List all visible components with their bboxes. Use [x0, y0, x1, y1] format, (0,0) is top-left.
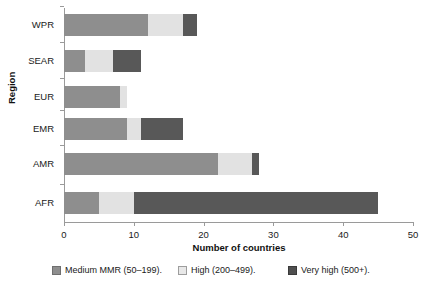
x-tick-0 [64, 222, 65, 226]
x-tick-30 [273, 222, 274, 226]
legend-label-medium: Medium MMR (50–199). [65, 265, 162, 275]
chart-figure: Region WPRSEAREUREMRAMRAFR 01020304050 N… [0, 0, 430, 290]
x-tick-50 [413, 222, 414, 226]
x-tick-label-40: 40 [338, 229, 349, 240]
y-axis-label-sear: SEAR [0, 55, 54, 66]
legend-item-high[interactable]: High (200–499). [178, 265, 256, 275]
bar-amr [64, 153, 259, 175]
legend-label-vhigh: Very high (500+). [301, 265, 370, 275]
bar-segment-amr-2 [252, 153, 259, 175]
bar-sear [64, 50, 141, 72]
y-axis-label-emr: EMR [0, 123, 54, 134]
bar-segment-amr-1 [218, 153, 253, 175]
bar-segment-wpr-1 [148, 14, 183, 36]
x-tick-label-30: 30 [268, 229, 279, 240]
plot-area [64, 8, 413, 222]
bar-segment-sear-2 [113, 50, 141, 72]
bar-segment-emr-1 [127, 118, 141, 140]
bar-segment-amr-0 [64, 153, 218, 175]
legend-swatch-vhigh-icon [288, 266, 297, 275]
y-axis-label-afr: AFR [0, 197, 54, 208]
x-tick-label-50: 50 [408, 229, 419, 240]
x-tick-10 [134, 222, 135, 226]
x-tick-label-0: 0 [61, 229, 66, 240]
legend-item-medium[interactable]: Medium MMR (50–199). [52, 265, 162, 275]
bar-wpr [64, 14, 197, 36]
bar-segment-eur-1 [120, 86, 127, 108]
legend-item-vhigh[interactable]: Very high (500+). [288, 265, 370, 275]
y-tick-sear [60, 42, 64, 43]
bar-segment-afr-2 [134, 192, 378, 214]
bar-segment-emr-2 [141, 118, 183, 140]
y-tick-amr [60, 145, 64, 146]
y-tick-eur [60, 78, 64, 79]
bar-emr [64, 118, 183, 140]
x-tick-label-10: 10 [129, 229, 140, 240]
bar-segment-afr-0 [64, 192, 99, 214]
x-tick-20 [204, 222, 205, 226]
legend-swatch-high-icon [178, 266, 187, 275]
y-tick-emr [60, 110, 64, 111]
y-axis-label-eur: EUR [0, 91, 54, 102]
bar-eur [64, 86, 127, 108]
chart-legend: Medium MMR (50–199).High (200–499).Very … [0, 263, 430, 283]
y-axis-tick-labels: WPRSEAREUREMRAMRAFR [0, 0, 58, 230]
x-axis-line [64, 222, 414, 223]
bar-segment-emr-0 [64, 118, 127, 140]
bar-segment-sear-1 [85, 50, 113, 72]
y-tick-afr [60, 184, 64, 185]
bar-segment-eur-0 [64, 86, 120, 108]
x-tick-label-20: 20 [198, 229, 209, 240]
y-axis-label-amr: AMR [0, 158, 54, 169]
bar-afr [64, 192, 378, 214]
x-tick-40 [343, 222, 344, 226]
y-tick-wpr [60, 6, 64, 7]
bar-segment-wpr-0 [64, 14, 148, 36]
x-axis-title: Number of countries [64, 242, 414, 253]
y-axis-label-wpr: WPR [0, 19, 54, 30]
legend-swatch-medium-icon [52, 266, 61, 275]
bar-segment-sear-0 [64, 50, 85, 72]
bar-segment-afr-1 [99, 192, 134, 214]
legend-label-high: High (200–499). [191, 265, 256, 275]
bar-segment-wpr-2 [183, 14, 197, 36]
